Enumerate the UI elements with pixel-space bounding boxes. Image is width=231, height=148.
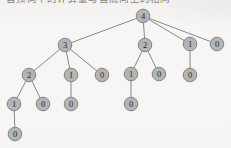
tree-node: 2 xyxy=(22,68,36,82)
tree-node-circle xyxy=(64,68,78,82)
tree-edge xyxy=(134,51,142,68)
tree-node-circle xyxy=(36,97,50,111)
tree-edge xyxy=(70,49,96,70)
tree-node: 4 xyxy=(136,9,150,23)
figure-canvas: 自顶向下的计算量与自底向上的相同 4321021010010000 xyxy=(0,0,231,148)
tree-node-circle xyxy=(152,67,166,81)
tree-node-circle xyxy=(210,37,224,51)
tree-edge xyxy=(143,23,144,38)
tree-node: 3 xyxy=(58,38,72,52)
tree-node-circle xyxy=(124,97,138,111)
tree-node-circle xyxy=(7,97,21,111)
tree-node: 0 xyxy=(210,37,224,51)
tree-edge xyxy=(71,18,136,42)
tree-node-circle xyxy=(136,9,150,23)
tree-edge xyxy=(34,49,60,70)
tree-edge xyxy=(149,19,184,40)
tree-node: 0 xyxy=(152,67,166,81)
tree-node: 1 xyxy=(183,37,197,51)
tree-node: 0 xyxy=(8,127,22,141)
tree-node-circle xyxy=(95,68,109,82)
tree-node: 0 xyxy=(64,97,78,111)
tree-node-circle xyxy=(124,67,138,81)
tree-node: 0 xyxy=(36,97,50,111)
tree-edge xyxy=(17,81,26,98)
tree-node-circle xyxy=(22,68,36,82)
tree-node-circle xyxy=(8,127,22,141)
tree-edge xyxy=(32,81,40,98)
tree-node: 1 xyxy=(7,97,21,111)
node-layer: 4321021010010000 xyxy=(7,9,224,141)
tree-node: 2 xyxy=(138,38,152,52)
tree-node-circle xyxy=(58,38,72,52)
tree-node: 1 xyxy=(124,67,138,81)
tree-node: 0 xyxy=(183,68,197,82)
tree-node-circle xyxy=(64,97,78,111)
tree-node-circle xyxy=(183,68,197,82)
tree-node: 0 xyxy=(95,68,109,82)
recursion-tree-diagram: 4321021010010000 xyxy=(0,0,231,148)
tree-node-circle xyxy=(138,38,152,52)
tree-edge xyxy=(14,111,15,127)
tree-node: 0 xyxy=(124,97,138,111)
tree-node-circle xyxy=(183,37,197,51)
tree-edge xyxy=(66,52,69,69)
tree-node: 1 xyxy=(64,68,78,82)
tree-edge xyxy=(148,51,156,68)
